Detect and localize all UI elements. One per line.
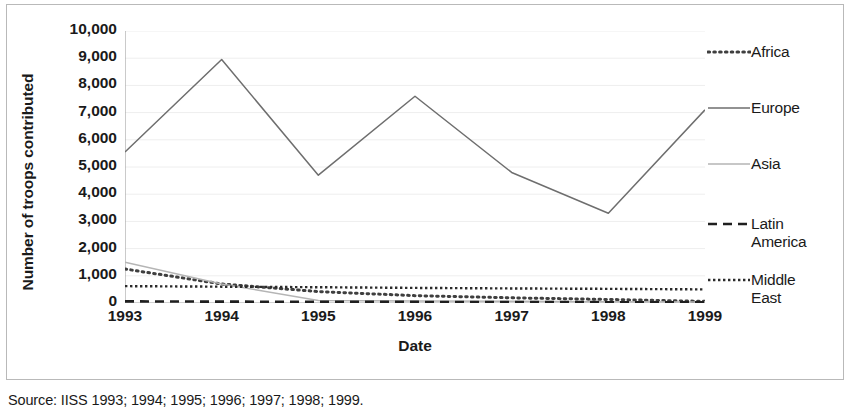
dashed-line-swatch (707, 216, 751, 232)
x-axis-tick-label: 1998 (568, 307, 648, 325)
line-chart-svg (125, 31, 705, 303)
y-axis-tick-label: 8,000 (25, 74, 117, 91)
legend-label: Africa (751, 43, 789, 61)
x-axis-tick-label: 1993 (85, 307, 165, 325)
series-line-europe (125, 60, 705, 214)
legend-entry-latin-america[interactable]: Latin America (707, 215, 847, 250)
dotted-line-swatch (707, 44, 751, 60)
solid-light-line-swatch (707, 156, 751, 172)
y-axis-tick-label: 5,000 (25, 156, 117, 173)
y-axis-tick-label: 6,000 (25, 129, 117, 146)
y-axis-tick-label: 10,000 (25, 20, 117, 37)
y-axis-tick-label: 7,000 (25, 102, 117, 119)
legend-label: Europe (751, 99, 800, 117)
solid-dark-line-swatch (707, 100, 751, 116)
legend-entry-europe[interactable]: Europe (707, 99, 847, 117)
legend-entry-asia[interactable]: Asia (707, 155, 847, 173)
y-axis-tick-labels: 10,0009,0008,0007,0006,0005,0004,0003,00… (25, 28, 117, 310)
x-axis-tick-label: 1997 (472, 307, 552, 325)
fine-dotted-line-swatch (707, 272, 751, 288)
source-caption: Source: IISS 1993; 1994; 1995; 1996; 199… (8, 392, 364, 408)
y-axis-tick-label: 2,000 (25, 238, 117, 255)
y-axis-tick-label: 1,000 (25, 265, 117, 282)
y-axis-tick-label: 3,000 (25, 210, 117, 227)
legend-label: Middle East (751, 271, 795, 306)
series-line-middle-east (125, 286, 705, 289)
legend-label: Latin America (751, 215, 806, 250)
x-axis-title: Date (125, 337, 705, 355)
x-axis-tick-label: 1999 (665, 307, 745, 325)
figure-container: Number of troops contributed 10,0009,000… (0, 0, 851, 419)
x-axis-tick-label: 1995 (278, 307, 358, 325)
x-axis-tick-label: 1994 (182, 307, 262, 325)
plot-area (125, 31, 705, 303)
legend-label: Asia (751, 155, 780, 173)
x-axis-tick-label: 1996 (375, 307, 455, 325)
legend-entry-africa[interactable]: Africa (707, 43, 847, 61)
series-line-africa (125, 269, 705, 301)
y-axis-tick-label: 9,000 (25, 47, 117, 64)
chart-frame: Number of troops contributed 10,0009,000… (6, 4, 844, 380)
legend-entry-middle-east[interactable]: Middle East (707, 271, 847, 306)
x-axis-tick-labels: 1993199419951996199719981999 (125, 307, 705, 331)
y-axis-tick-label: 4,000 (25, 183, 117, 200)
